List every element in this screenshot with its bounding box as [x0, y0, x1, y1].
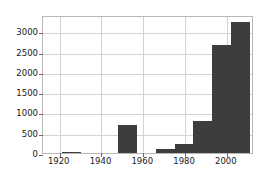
plot-area [42, 16, 253, 154]
histogram-figure: 050010001500200025003000 192019401960198… [0, 0, 271, 181]
x-tick-label: 1920 [48, 157, 70, 166]
y-tick-label: 3000 [16, 28, 38, 37]
x-tick-label: 1980 [173, 157, 195, 166]
y-tick-label: 1000 [16, 109, 38, 118]
histogram-bar [212, 45, 231, 153]
histogram-bar [175, 144, 194, 153]
x-axis-labels: 19201940196019802000 [42, 157, 253, 173]
histogram-bar [118, 125, 137, 153]
histogram-bar [231, 22, 250, 154]
y-tick-label: 2500 [16, 48, 38, 57]
y-tick-label: 2000 [16, 69, 38, 78]
x-tick-label: 1960 [131, 157, 153, 166]
x-tick-label: 1940 [90, 157, 112, 166]
bars-layer [43, 17, 252, 153]
y-tick-label: 500 [22, 129, 38, 138]
y-tick-label: 0 [33, 150, 38, 159]
y-tick-mark [39, 155, 43, 156]
histogram-bar [156, 149, 175, 153]
histogram-bar [193, 121, 212, 153]
histogram-bar [62, 152, 81, 153]
y-tick-label: 1500 [16, 89, 38, 98]
x-tick-label: 2000 [215, 157, 237, 166]
y-axis-labels: 050010001500200025003000 [0, 16, 38, 154]
